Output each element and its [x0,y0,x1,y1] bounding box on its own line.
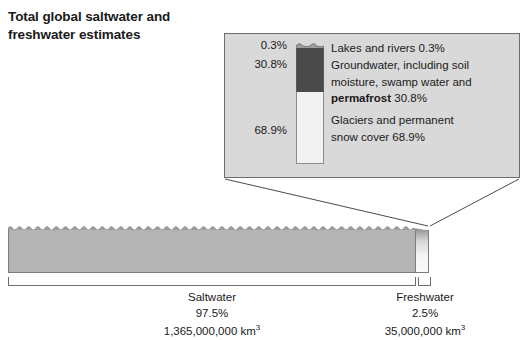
legend-glaciers-line1: Glaciers and permanent [331,112,516,129]
legend-groundwater-line3: permafrost 30.8% [331,90,516,107]
freshwater-segment [416,230,429,273]
legend-permafrost-emphasis: permafrost [331,92,391,104]
percent-lakes-and-rivers: 0.3% [225,40,287,52]
legend-groundwater-line2: moisture, swamp water and [331,74,516,91]
saltwater-percent: 97.5% [112,305,312,321]
glaciers-segment [296,92,324,164]
saltwater-bracket [8,277,416,286]
saltwater-name: Saltwater [112,289,312,305]
legend-groundwater-value: 30.8% [391,92,427,104]
freshwater-percent: 2.5% [335,305,515,321]
saltwater-volume: 1,365,000,000 km3 [112,322,312,339]
saltwater-volume-exponent: 3 [256,323,260,332]
legend-glaciers-line2: snow cover 68.9% [331,129,516,146]
percent-glaciers: 68.9% [225,125,287,137]
legend-lakes-and-rivers: Lakes and rivers 0.3% [331,40,516,57]
freshwater-label-group: Freshwater 2.5% 35,000,000 km3 [335,289,515,339]
freshwater-name: Freshwater [335,289,515,305]
groundwater-segment [296,48,324,92]
page-title: Total global saltwater and freshwater es… [8,8,223,44]
total-water-bar [8,225,429,273]
percent-groundwater: 30.8% [225,59,287,71]
callout-legend-text: Lakes and rivers 0.3% Groundwater, inclu… [331,40,516,146]
legend-groundwater-line1: Groundwater, including soil [331,57,516,74]
saltwater-volume-number: 1,365,000,000 km [164,324,256,336]
freshwater-volume-number: 35,000,000 km [385,324,461,336]
freshwater-stacked-bar [296,42,324,164]
freshwater-volume-exponent: 3 [461,323,465,332]
infographic-root: Total global saltwater and freshwater es… [0,0,528,340]
freshwater-breakdown-callout: 0.3% 30.8% 68.9% Lakes and rivers 0.3% G… [224,33,520,178]
freshwater-bracket [418,277,431,286]
freshwater-volume: 35,000,000 km3 [335,322,515,339]
saltwater-label-group: Saltwater 97.5% 1,365,000,000 km3 [112,289,312,339]
saltwater-segment [8,230,416,273]
